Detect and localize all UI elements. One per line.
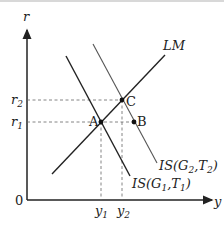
- point-a: [99, 120, 104, 125]
- y-axis-label: r: [23, 9, 30, 24]
- x-axis-label: y: [213, 194, 222, 209]
- r1-label: r1: [11, 114, 23, 131]
- is2-curve: [93, 44, 157, 163]
- is1-label: IS(G1,T1): [131, 176, 191, 193]
- point-b: [132, 120, 137, 125]
- r2-label: r2: [11, 92, 23, 109]
- origin-label: 0: [15, 193, 23, 208]
- y1-label: y1: [94, 203, 108, 220]
- point-c: [120, 98, 125, 103]
- is-lm-diagram: A B C r y 0 r2 r1 y1 y2 LM IS(G2,T2) IS(…: [0, 0, 224, 226]
- point-a-label: A: [88, 114, 99, 129]
- lm-label: LM: [162, 38, 186, 53]
- y2-label: y2: [116, 203, 130, 220]
- point-b-label: B: [137, 114, 147, 129]
- is2-label: IS(G2,T2): [158, 158, 218, 175]
- point-c-label: C: [126, 94, 136, 109]
